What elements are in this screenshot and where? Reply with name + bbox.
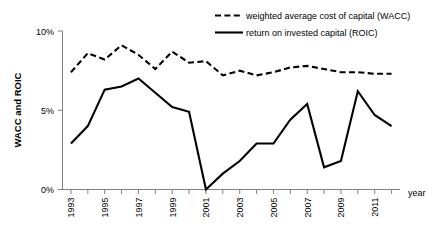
- x-tick-label: 1993: [66, 198, 76, 218]
- x-tick-label: 2001: [201, 198, 211, 218]
- chart-figure: 10% 5% 0% WACC and ROIC 1993199519971999…: [0, 0, 443, 236]
- legend-label-roic: return on invested capital (ROIC): [246, 28, 378, 38]
- x-tick-label: 1999: [168, 198, 178, 218]
- line-chart-canvas: 10% 5% 0% WACC and ROIC 1993199519971999…: [0, 0, 443, 236]
- x-tick-label: 2003: [235, 198, 245, 218]
- x-tick-label: 1995: [100, 198, 110, 218]
- x-tick-label: 1997: [134, 198, 144, 218]
- y-tick-label-10: 10%: [36, 27, 54, 37]
- x-tick-label: 2011: [370, 198, 380, 217]
- x-tick-label: 2007: [303, 198, 313, 218]
- x-tick-label: 2005: [269, 198, 279, 218]
- y-tick-label-0: 0%: [41, 185, 54, 195]
- y-tick-label-5: 5%: [41, 106, 54, 116]
- x-tick-label: 2009: [336, 198, 346, 218]
- legend-label-wacc: weighted average cost of capital (WACC): [245, 11, 410, 21]
- x-axis-title: year: [408, 188, 426, 198]
- y-axis-title: WACC and ROIC: [12, 72, 23, 147]
